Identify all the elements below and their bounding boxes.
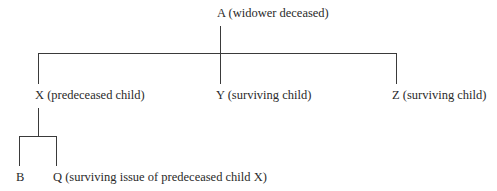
- node-x: X (predeceased child): [35, 88, 145, 102]
- node-z: Z (surviving child): [392, 88, 486, 102]
- node-q: Q (surviving issue of predeceased child …: [53, 170, 267, 184]
- node-y: Y (surviving child): [216, 88, 311, 102]
- node-b: B: [16, 170, 24, 184]
- node-a: A (widower deceased): [217, 6, 329, 20]
